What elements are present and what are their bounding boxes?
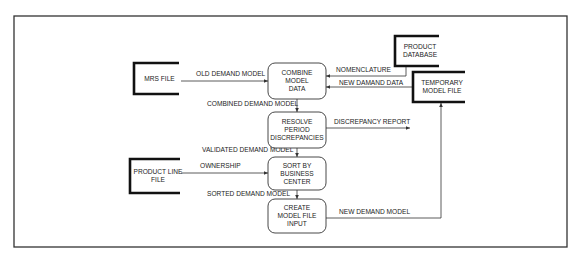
data-store-product-database: PRODUCTDATABASE: [395, 36, 439, 66]
flow-combined-demand-model: COMBINED DEMAND MODEL: [207, 99, 299, 112]
arrowhead-icon: [295, 195, 299, 199]
node-label-line: CENTER: [283, 178, 310, 185]
flow-nomenclature: NOMENCLATURE: [326, 66, 406, 78]
node-label-line: DATA: [289, 85, 306, 92]
arrowhead-icon: [406, 126, 410, 130]
arrowhead-icon: [439, 103, 443, 107]
node-label-line: MODEL FILE: [278, 212, 318, 219]
node-label-line: INPUT: [287, 220, 307, 227]
processes-layer: COMBINEMODELDATARESOLVEPERIODDISCREPANCI…: [268, 63, 326, 233]
data-store-temporary-model-file: TEMPORARYMODEL FILE: [413, 72, 465, 102]
flow-label: SORTED DEMAND MODEL: [207, 190, 290, 197]
node-label-line: TEMPORARY: [421, 79, 463, 86]
arrowhead-icon: [326, 85, 330, 89]
flow-label: OWNERSHIP: [200, 162, 241, 169]
flow-ownership: OWNERSHIP: [181, 162, 268, 175]
flow-discrepancy-report: DISCREPANCY REPORT: [326, 118, 410, 130]
data-store-mrs-file: MRS FILE: [134, 63, 179, 94]
arrowhead-icon: [295, 153, 299, 157]
arrowhead-icon: [264, 171, 268, 175]
flow-label: NOMENCLATURE: [336, 66, 391, 73]
node-label-line: DATABASE: [403, 51, 438, 58]
node-label-line: MODEL: [285, 77, 309, 84]
arrowhead-icon: [326, 74, 330, 78]
node-label-line: MODEL FILE: [423, 87, 463, 94]
node-label-line: CREATE: [284, 204, 311, 211]
arrowhead-icon: [264, 79, 268, 83]
flow-label: COMBINED DEMAND MODEL: [207, 100, 299, 107]
process-combine: COMBINEMODELDATA: [268, 63, 326, 99]
flow-label: NEW DEMAND MODEL: [339, 208, 410, 215]
node-label-line: RESOLVE: [282, 118, 313, 125]
flow-label: DISCREPANCY REPORT: [334, 118, 410, 125]
node-label-line: PRODUCT LINE: [134, 168, 184, 175]
node-label-line: PERIOD: [284, 126, 310, 133]
node-label-line: DISCREPANCIES: [270, 134, 324, 141]
process-resolve: RESOLVEPERIODDISCREPANCIES: [268, 112, 326, 148]
data-store-product-line-file: PRODUCT LINEFILE: [130, 159, 183, 193]
node-label-line: SORT BY: [283, 162, 312, 169]
node-label-line: BUSINESS: [280, 170, 314, 177]
flow-label: OLD DEMAND MODEL: [196, 70, 266, 77]
arrowhead-icon: [295, 108, 299, 112]
node-label-line: PRODUCT: [404, 43, 437, 50]
process-sort: SORT BYBUSINESSCENTER: [268, 157, 326, 190]
node-label-line: COMBINE: [282, 69, 313, 76]
process-create: CREATEMODEL FILEINPUT: [268, 199, 326, 233]
flow-new-damand-data: NEW DAMAND DATA: [326, 79, 413, 89]
node-label-line: MRS FILE: [144, 75, 175, 82]
flow-old-demand-model: OLD DEMAND MODEL: [181, 70, 268, 83]
flow-label: NEW DAMAND DATA: [339, 79, 404, 86]
diagram-canvas: OLD DEMAND MODELNOMENCLATURENEW DAMAND D…: [0, 0, 581, 259]
data-flow-diagram: OLD DEMAND MODELNOMENCLATURENEW DAMAND D…: [0, 0, 581, 259]
node-label-line: FILE: [151, 176, 166, 183]
flow-sorted-demand-model: SORTED DEMAND MODEL: [207, 190, 299, 199]
